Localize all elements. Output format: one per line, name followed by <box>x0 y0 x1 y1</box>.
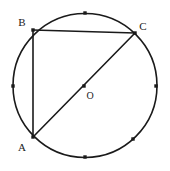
point-marker-o <box>82 84 85 87</box>
point-marker-b <box>31 28 34 31</box>
point-label-c: C <box>139 20 146 32</box>
point-label-o: O <box>86 90 93 101</box>
arc-marker-right <box>154 84 157 87</box>
arc-marker-left <box>11 84 14 87</box>
point-marker-a <box>31 135 34 138</box>
segment-bc <box>33 30 135 33</box>
arc-marker-bottom <box>83 155 86 158</box>
arc-marker-top <box>83 11 86 14</box>
point-marker-c <box>133 31 136 34</box>
arc-marker-lower-right <box>131 137 134 140</box>
point-label-a: A <box>18 141 26 153</box>
point-label-b: B <box>18 16 25 28</box>
diagram-canvas: B C A O <box>0 0 170 171</box>
circle-geometry-figure: B C A O <box>0 0 170 171</box>
